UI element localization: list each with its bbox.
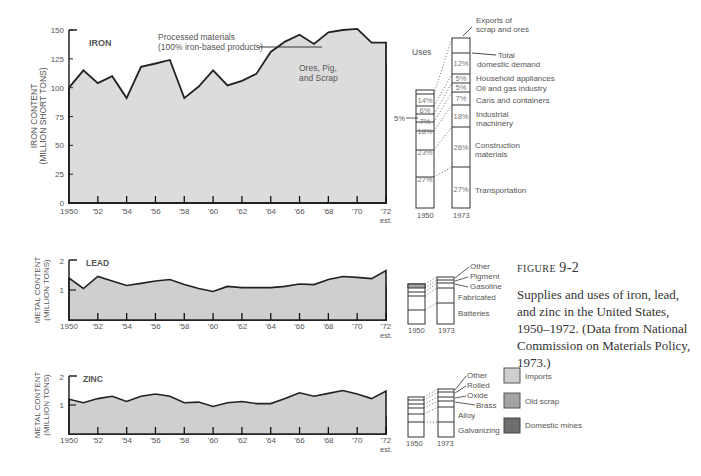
x-tick-label: '58 [179,207,190,216]
x-tick-label: '68 [323,436,334,445]
x-tick-label: '56 [150,436,161,445]
legend-label-domestic-mines: Domestic mines [525,421,582,430]
x-tick-label: 1950 [60,322,78,331]
iron-ytick-label: 150 [51,26,65,35]
lead-bar-1973 [437,277,454,324]
zinc-year-1973: 1973 [437,439,454,448]
zinc-uses-bar-chart: 1950 1973 Other Rolled Oxide Brass Alloy… [406,371,500,448]
zinc-label-alloy: Alloy [458,411,475,420]
iron-1950-pct-transport: 27% [417,175,432,184]
lead-year-1973: 1973 [438,326,455,335]
lead-label-other: Other [470,262,490,271]
lead-est-label: est. [380,331,392,340]
lead-bar-1950 [408,284,425,324]
x-tick-label: '54 [121,436,132,445]
lead-imports-area [69,271,386,321]
iron-ytick-label: 50 [55,141,64,150]
x-tick-label: '54 [121,207,132,216]
iron-1973-pct-oilgas: 5% [456,83,467,92]
x-tick-label: '52 [93,436,104,445]
x-tick-label: '68 [323,207,334,216]
iron-ytick-label: 75 [55,113,64,122]
iron-est-label: est. [380,216,392,225]
zinc-imports-area [69,391,386,435]
iron-processed-area [69,29,386,203]
iron-title: IRON [89,38,112,48]
label-exports-2: scrap and ores [476,25,529,34]
iron-ytick-label: 100 [51,84,65,93]
ores-annotation-line2: and Scrap [299,73,338,83]
iron-area-chart: 0255075100125150 1950'52'54'56'58'60'62'… [29,26,392,225]
iron-1973-pct-total: 12% [453,59,468,68]
label-transport: Transportation [475,186,526,195]
lead-area-chart: 2 1 LEAD 1950'52'54'56'58'60'62'64'66'68… [33,257,392,340]
x-tick-label: '66 [294,322,305,331]
ores-annotation-line1: Ores, Pig, [299,63,337,73]
x-tick-label: '70 [352,322,363,331]
label-industrial-1: Industrial [476,110,509,119]
label-total-1: Total [498,51,515,60]
zinc-label-brass: Brass [476,401,496,410]
label-cans: Cans and containers [476,96,549,105]
x-tick-label: '62 [237,322,248,331]
lead-ylabel-line2: (MILLION TONS) [42,259,51,321]
zinc-bar-1950 [408,397,424,437]
lead-label-fabricated: Fabricated [458,293,496,302]
lead-label-gasoline: Gasoline [470,282,502,291]
x-tick-label: '56 [150,322,161,331]
iron-1950-pct-total: 14% [417,96,432,105]
label-construction-2: materials [475,150,507,159]
lead-ytick-2: 2 [60,257,65,266]
x-tick-label: '64 [266,207,277,216]
x-tick-label: '58 [179,436,190,445]
iron-1973-pct-household: 5% [456,74,467,83]
figure-canvas: 0255075100125150 1950'52'54'56'58'60'62'… [0,0,701,476]
x-tick-label: '64 [266,322,277,331]
lead-label-batteries: Batteries [458,309,490,318]
x-tick-label: '62 [237,436,248,445]
x-tick-label: '54 [121,322,132,331]
label-industrial-2: machinery [476,119,513,128]
legend-label-imports: Imports [525,372,552,381]
iron-1950-pct-cans: 7% [420,117,431,126]
x-tick-label: 1950 [60,436,78,445]
zinc-area-chart: 2 1 ZINC 1950'52'54'56'58'60'62'64'66'68… [33,372,392,454]
zinc-label-rolled: Rolled [467,381,490,390]
zinc-title: ZINC [83,374,103,384]
iron-ytick-label: 125 [51,55,65,64]
lead-ytick-1: 1 [60,286,65,295]
iron-1973-pct-transport: 27% [453,185,468,194]
zinc-est-label: est. [380,445,392,454]
x-tick-label: '60 [208,207,219,216]
lead-label-pigment: Pigment [470,272,500,281]
lead-ylabel-line1: METAL CONTENT [33,257,42,324]
x-tick-label: '60 [208,436,219,445]
label-household: Household appliances [476,74,555,83]
x-tick-label: '52 [93,207,104,216]
iron-1950-pct-construction: 23% [417,148,432,157]
iron-1973-pct-cans: 7% [456,94,467,103]
iron-1973-pct-construction: 26% [453,143,468,152]
zinc-label-other: Other [467,371,487,380]
uses-title: Uses [412,47,431,57]
caption-text: Supplies and uses of iron, lead, and zin… [517,286,697,371]
lead-title: LEAD [86,258,109,268]
zinc-label-oxide: Oxide [467,391,488,400]
legend: Imports Old scrap Domestic mines [504,368,582,433]
iron-ylabel-line2: (MILLION SHORT TONS) [38,67,48,164]
zinc-ylabel-line2: (MILLION TONS) [42,374,51,436]
lead-year-1950: 1950 [408,326,425,335]
iron-1973-pct-industrial: 18% [453,112,468,121]
label-total-2: domestic demand [477,60,540,69]
x-tick-label: '60 [208,322,219,331]
zinc-year-1950: 1950 [406,439,423,448]
legend-swatch-domestic-mines [504,418,520,433]
x-tick-label: 1950 [60,207,78,216]
label-construction-1: Construction [475,141,520,150]
lead-uses-bar-chart: 1950 1973 Other Pigment Gasoline Fabrica… [408,262,502,335]
legend-swatch-old-scrap [504,393,520,408]
label-oilgas: Oil and gas industry [476,84,547,93]
x-tick-label: '62 [237,207,248,216]
x-tick-label: '66 [294,207,305,216]
figure-number: 9-2 [559,260,579,275]
